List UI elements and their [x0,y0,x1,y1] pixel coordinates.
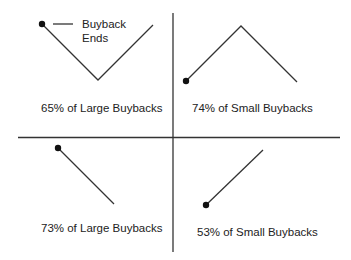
legend-label-line2: Ends [82,32,108,44]
buyback-end-dot [183,78,189,84]
bottom-right-pattern [203,150,263,208]
buyback-end-dot [203,202,209,208]
buyback-end-dot [39,21,45,27]
top-left-label: 65% of Large Buybacks [41,102,163,114]
buyback-end-dot [55,145,61,151]
quadrant-diagram: Buyback Ends 65% of Large Buybacks 74% o… [0,0,351,260]
top-right-pattern [183,26,297,84]
bottom-left-label: 73% of Large Buybacks [41,222,163,234]
bottom-left-pattern [55,145,114,204]
bottom-right-label: 53% of Small Buybacks [197,226,318,238]
legend-label-line1: Buyback [82,18,126,30]
top-right-label: 74% of Small Buybacks [192,102,313,114]
